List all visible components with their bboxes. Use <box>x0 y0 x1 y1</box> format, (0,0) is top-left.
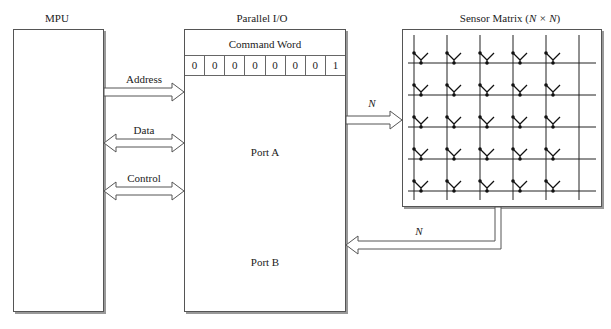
port-b-input-arrow <box>346 207 501 254</box>
port-a-width-label: N <box>368 97 375 109</box>
sensor-grid <box>408 35 596 200</box>
control-bus-label: Control <box>127 172 161 184</box>
sensor-switches <box>412 51 560 193</box>
address-bus-arrow <box>104 83 184 101</box>
control-bus-arrow <box>104 182 184 200</box>
port-a-output-arrow <box>346 111 402 129</box>
data-bus-arrow <box>104 134 184 152</box>
address-bus-label: Address <box>126 73 162 85</box>
port-b-width-label: N <box>415 225 422 237</box>
data-bus-label: Data <box>134 124 155 136</box>
diagram-graphics <box>0 0 611 329</box>
